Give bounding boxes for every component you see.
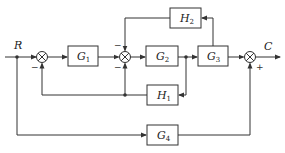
sign-s2-bottom: −	[114, 62, 122, 72]
summing-junction-3: +	[245, 52, 264, 73]
block-g1: G1	[68, 46, 98, 66]
input-label: R	[13, 39, 22, 52]
feedback-h2: H2	[125, 8, 213, 51]
sign-s3-bottom: +	[256, 62, 264, 72]
block-g3: G3	[198, 46, 228, 66]
summing-junction-1: −	[31, 52, 48, 73]
feedforward-g4: G4	[17, 57, 250, 145]
input-signal-r: R	[5, 39, 36, 59]
block-g2: G2	[146, 46, 178, 66]
output-label: C	[264, 40, 273, 53]
summing-junction-2: − −	[114, 40, 131, 72]
sign-s1-bottom: −	[31, 62, 39, 72]
output-signal-c: C	[256, 40, 281, 57]
sign-s2-top: −	[114, 40, 122, 50]
block-diagram: R − G1 − − G2 G3	[0, 0, 285, 153]
